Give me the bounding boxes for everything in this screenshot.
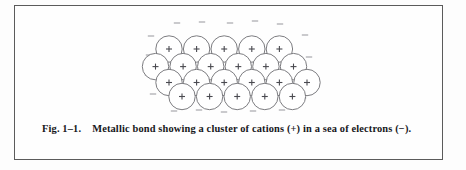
cation-circle — [196, 83, 222, 109]
metallic-bond-diagram — [15, 6, 444, 116]
cation-circle — [169, 83, 195, 109]
figure-caption: Fig. 1–1.Metallic bond showing a cluster… — [42, 122, 427, 135]
cation-cluster-layer — [142, 36, 320, 110]
cation-circle — [252, 83, 278, 109]
figure-number: Fig. 1–1. — [42, 123, 81, 134]
cation-circle — [279, 83, 305, 109]
cation-circle — [224, 83, 250, 109]
lattice-svg — [15, 6, 444, 118]
figure-root: Fig. 1–1.Metallic bond showing a cluster… — [0, 0, 466, 170]
figure-border-box: Fig. 1–1.Metallic bond showing a cluster… — [14, 5, 443, 160]
caption-text: Metallic bond showing a cluster of catio… — [92, 123, 411, 134]
